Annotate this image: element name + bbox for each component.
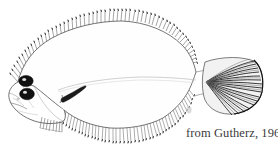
paper-smudge (186, 107, 191, 114)
eye-upper (19, 75, 33, 86)
eye-lower (20, 88, 35, 100)
attribution-caption: from Gutherz, 1967 (186, 125, 278, 141)
figure-page: from Gutherz, 1967 (0, 0, 278, 153)
